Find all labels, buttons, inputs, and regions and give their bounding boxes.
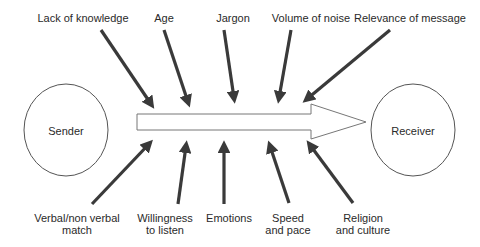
arrow-lack-of-knowledge [101, 30, 151, 104]
arrow-age [164, 30, 188, 102]
label-line: to listen [137, 224, 193, 236]
arrow-speed-and-pace [270, 146, 289, 203]
arrow-volume-of-noise [279, 30, 291, 98]
arrow-relevance-of-message [307, 30, 390, 99]
label-volume-of-noise: Volume of noise [272, 12, 350, 24]
label-jargon: Jargon [216, 12, 250, 24]
label-religion-and-culture: Religion and culture [336, 212, 390, 236]
label-age: Age [154, 12, 174, 24]
label-speed-and-pace: Speed and pace [265, 212, 310, 236]
label-line: Verbal/non verbal [34, 212, 120, 224]
label-line: Religion [336, 212, 390, 224]
label-line: and culture [336, 224, 390, 236]
label-line: match [34, 224, 120, 236]
label-verbal-nonverbal-match: Verbal/non verbal match [34, 212, 120, 236]
diagram-canvas [0, 0, 480, 247]
label-line: Willingness [137, 212, 193, 224]
message-arrow [137, 104, 366, 139]
sender-label: Sender [48, 125, 83, 137]
label-emotions: Emotions [206, 212, 252, 224]
label-lack-of-knowledge: Lack of knowledge [37, 12, 128, 24]
receiver-label: Receiver [391, 125, 434, 137]
label-line: and pace [265, 224, 310, 236]
label-relevance-of-message: Relevance of message [354, 12, 466, 24]
label-willingness-to-listen: Willingness to listen [137, 212, 193, 236]
label-line: Speed [265, 212, 310, 224]
arrow-verbal-nonverbal [92, 144, 149, 204]
arrow-willingness [178, 146, 186, 204]
arrow-religion-and-culture [310, 145, 353, 203]
label-line: Emotions [206, 212, 252, 224]
arrow-jargon [224, 30, 234, 98]
